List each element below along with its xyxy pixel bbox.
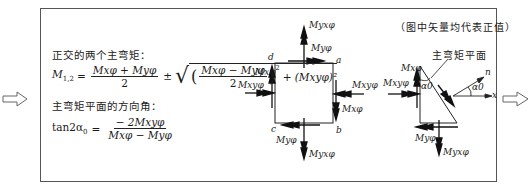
label-right-mx: Mxφ bbox=[342, 104, 363, 114]
formula-principal-moments: M1,2 = Mxφ + Myφ 2 ± √ ( Mxφ − Myφ 2 )2 … bbox=[52, 63, 337, 89]
fraction-denominator: 2 bbox=[228, 77, 239, 89]
fraction-numerator: − 2Mxyφ bbox=[114, 116, 167, 129]
fraction-denominator: Mxφ − Myφ bbox=[106, 129, 174, 141]
label-top-myx: Myxφ bbox=[309, 20, 335, 30]
label-right-mxy: Mxyφ bbox=[352, 80, 378, 90]
label-top-my: Myφ bbox=[311, 43, 332, 53]
fraction-sum: Mxφ + Myφ 2 bbox=[91, 64, 159, 89]
note-text: （图中矢量均代表正值） bbox=[395, 19, 516, 34]
corner-label-d: d bbox=[268, 52, 274, 62]
label-left-mxy: Mxyφ bbox=[238, 80, 264, 90]
formula-lhs: M1,2 bbox=[52, 68, 74, 83]
fraction-numerator: Mxφ + Myφ bbox=[91, 64, 159, 77]
label-tri-alpha0: α0 bbox=[421, 81, 433, 91]
label-bottom-myx: Myxφ bbox=[309, 149, 335, 159]
plus-minus-sign: ± bbox=[163, 70, 172, 82]
flow-arrow-right-icon bbox=[503, 92, 528, 106]
equals-sign: = bbox=[91, 123, 100, 135]
heading-direction-angle: 主弯矩平面的方向角： bbox=[52, 98, 162, 113]
label-left-mx: Mxφ bbox=[255, 67, 276, 77]
label-tri-mxy: Mxyφ bbox=[383, 78, 409, 88]
corner-label-b: b bbox=[336, 125, 342, 135]
axis-label-alpha0: α0 bbox=[472, 82, 484, 92]
equals-sign: = bbox=[77, 70, 86, 82]
label-tri-my: Myφ bbox=[415, 133, 436, 143]
sqrt-icon: √ bbox=[175, 66, 189, 86]
formula-lhs: tan2α0 bbox=[52, 121, 87, 136]
flow-arrow-left-icon bbox=[3, 92, 27, 106]
label-tri-myx: Myxφ bbox=[443, 147, 469, 157]
label-principal-plane: 主弯矩平面 bbox=[432, 47, 487, 62]
axis-label-x: x bbox=[492, 90, 497, 100]
heading-principal-moments: 正交的两个主弯矩： bbox=[52, 47, 151, 62]
axis-label-n: n bbox=[485, 67, 491, 77]
fraction-denominator: 2 bbox=[119, 77, 130, 89]
content-frame bbox=[40, 8, 497, 182]
label-bottom-my: Myφ bbox=[276, 135, 297, 145]
formula-direction-angle: tan2α0 = − 2Mxyφ Mxφ − Myφ bbox=[52, 116, 176, 141]
sqrt-tail-term: + (Mxyφ)² bbox=[283, 71, 338, 83]
fraction-angle: − 2Mxyφ Mxφ − Myφ bbox=[106, 116, 174, 141]
corner-label-c: c bbox=[271, 124, 276, 134]
corner-label-a: a bbox=[336, 55, 341, 65]
label-tri-mx: Mxφ bbox=[401, 63, 422, 73]
